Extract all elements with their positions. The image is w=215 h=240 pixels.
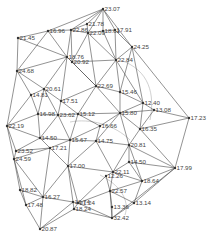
node-label: 22.19 [9, 122, 25, 129]
edge [88, 33, 96, 86]
node-label: 14.75 [98, 137, 114, 144]
node-label: 16.98 [40, 110, 56, 117]
node-label: 20.92 [74, 58, 90, 65]
node-label: 17.21 [52, 144, 68, 151]
node-label: 15.80 [122, 109, 138, 116]
node-label: 16.96 [50, 27, 66, 34]
node-label: 24.25 [134, 43, 150, 50]
edge [72, 62, 96, 86]
node-label: 16.27 [45, 193, 61, 200]
node-label: 21.78 [89, 20, 105, 27]
edge [96, 86, 120, 113]
edge [116, 60, 120, 92]
node-label: 17.23 [191, 114, 207, 121]
node-label: 16.66 [102, 122, 118, 129]
edge [7, 71, 17, 126]
node-label: 22.84 [118, 56, 134, 63]
node-label: 24.59 [16, 155, 32, 162]
node-label: 17.48 [28, 201, 44, 208]
node-label: 13.14 [136, 199, 152, 206]
edge [175, 118, 189, 168]
node-label: 13.08 [156, 106, 172, 113]
node-label: 23.52 [18, 147, 34, 154]
edge [115, 30, 116, 60]
node-label: 14.50 [42, 134, 58, 141]
node-label: 20.81 [131, 141, 147, 148]
node-label: 12.40 [145, 99, 161, 106]
edge [58, 115, 70, 140]
node-label: 17.00 [70, 162, 86, 169]
node-layer [6, 8, 190, 230]
edge [68, 166, 73, 202]
edge-layer [7, 9, 189, 229]
node-label: 20.87 [42, 225, 58, 232]
node-label: 21.45 [20, 34, 36, 41]
network-diagram: 23.0721.7822.8622.0918.6117.9121.4516.96… [0, 0, 215, 240]
edge [88, 33, 116, 60]
node-label: 15.67 [72, 136, 88, 143]
node-label: 17.99 [177, 164, 193, 171]
node-label: 18.82 [22, 186, 38, 193]
node-label: 23.62 [60, 111, 76, 118]
node-label: 17.91 [117, 26, 133, 33]
node-label: 15.46 [122, 88, 138, 95]
edge [17, 71, 31, 95]
edge [14, 159, 20, 190]
node-label: 16.35 [142, 125, 158, 132]
node-label: 12.26 [108, 172, 124, 179]
edge [38, 114, 40, 138]
node-label: 13.36 [114, 203, 130, 210]
node-label: 18.24 [76, 205, 92, 212]
edge [26, 205, 40, 229]
node-label: 18.64 [144, 177, 160, 184]
node-label: 17.51 [63, 97, 79, 104]
edge [96, 141, 113, 172]
node-label: 22.09 [90, 29, 106, 36]
edge [14, 159, 26, 205]
edge [120, 113, 129, 145]
node-label: 22.86 [73, 26, 89, 33]
node-label: 24.68 [19, 67, 35, 74]
node-label: 22.69 [98, 82, 114, 89]
node-label: 15.12 [80, 110, 96, 117]
node-label: 23.07 [105, 5, 121, 12]
node-label: 14.81 [33, 91, 49, 98]
node-label: 14.50 [131, 158, 147, 165]
node-label: 22.57 [112, 187, 128, 194]
node-label: 32.42 [114, 214, 130, 221]
